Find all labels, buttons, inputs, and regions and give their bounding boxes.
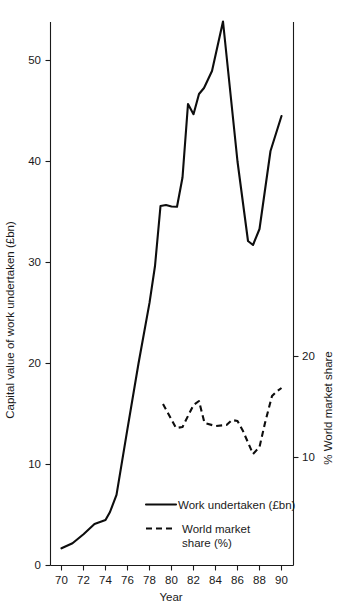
left-tick-label-10: 10: [28, 458, 41, 470]
x-axis-ticks: [62, 566, 282, 571]
x-tick-label-72: 72: [77, 574, 90, 586]
x-tick-label-84: 84: [209, 574, 222, 586]
x-tick-label-82: 82: [187, 574, 200, 586]
chart-svg: 0 10 20 30 40 50 20 10: [0, 0, 343, 612]
x-tick-label-80: 80: [165, 574, 178, 586]
series-work-undertaken: [62, 22, 282, 549]
x-tick-label-90: 90: [275, 574, 288, 586]
left-tick-label-50: 50: [28, 54, 41, 66]
x-tick-label-86: 86: [231, 574, 244, 586]
left-tick-label-0: 0: [35, 559, 41, 571]
left-tick-label-20: 20: [28, 357, 41, 369]
legend-label-world-market-share-line2: share (%): [182, 537, 232, 549]
chart-legend: Work undertaken (£bn) World market share…: [146, 499, 296, 549]
chart-container: 0 10 20 30 40 50 20 10: [0, 0, 343, 612]
right-axis-ticks: [294, 357, 299, 458]
left-tick-label-40: 40: [28, 155, 41, 167]
x-tick-label-70: 70: [55, 574, 68, 586]
x-tick-label-78: 78: [143, 574, 156, 586]
legend-label-world-market-share-line1: World market: [182, 523, 251, 535]
figure-caption-partial: [0, 596, 343, 612]
x-axis-tick-labels: 70 72 74 76 78 80 82 84 86 88 90: [55, 574, 288, 586]
legend-label-work-undertaken: Work undertaken (£bn): [178, 499, 296, 511]
right-axis-tick-labels: 20 10: [302, 350, 315, 463]
right-tick-label-10: 10: [302, 451, 315, 463]
x-tick-label-88: 88: [253, 574, 266, 586]
series-world-market-share: [163, 388, 282, 454]
right-tick-label-20: 20: [302, 350, 315, 362]
left-axis-ticks: [46, 61, 51, 566]
y-axis-title: Capital value of work undertaken (£bn): [4, 221, 16, 419]
left-axis-tick-labels: 0 10 20 30 40 50: [28, 54, 41, 571]
y2-axis-title: % World market share: [322, 351, 334, 465]
axes-frame: [51, 22, 294, 566]
x-tick-label-74: 74: [99, 574, 112, 586]
x-tick-label-76: 76: [121, 574, 134, 586]
left-tick-label-30: 30: [28, 256, 41, 268]
